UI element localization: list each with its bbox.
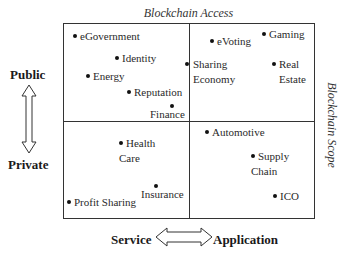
bullet-icon	[115, 56, 119, 60]
item-egovernment: eGovernment	[73, 30, 140, 43]
blockchain-access-title: Blockchain Access	[63, 6, 314, 21]
item-health-care: HealthCare	[119, 137, 155, 165]
application-label: Application	[213, 232, 278, 248]
item-energy: Energy	[86, 70, 125, 83]
item-supply-chain: SupplyChain	[251, 150, 289, 178]
item-automotive: Automotive	[205, 126, 265, 139]
service-label: Service	[111, 232, 151, 248]
item-finance: Finance	[150, 108, 185, 121]
item-real-estate: RealEstate	[272, 58, 306, 86]
bullet-icon	[273, 194, 277, 198]
bullet-icon	[127, 90, 131, 94]
blockchain-scope-title: Blockchain Scope	[324, 82, 339, 168]
bullet-icon	[119, 141, 123, 145]
double-horizontal-arrow-icon	[155, 226, 213, 248]
private-label: Private	[8, 157, 48, 173]
item-identity: Identity	[115, 52, 156, 65]
item-profit-sharing: Profit Sharing	[67, 196, 136, 209]
bullet-icon	[272, 62, 276, 66]
item-reputation: Reputation	[127, 86, 182, 99]
item-insurance: Insurance	[141, 188, 184, 201]
bullet-icon	[67, 200, 71, 204]
bullet-icon	[251, 154, 255, 158]
horizontal-divider	[63, 121, 314, 122]
bullet-icon	[262, 32, 266, 36]
double-vertical-arrow-icon	[21, 84, 37, 154]
item-gaming: Gaming	[262, 28, 304, 41]
blockchain-scope-title-container: Blockchain Scope	[318, 70, 344, 180]
item-sharing-economy: SharingEconomy	[193, 58, 235, 86]
bullet-icon	[86, 74, 90, 78]
bullet-icon	[210, 39, 214, 43]
bullet-icon	[205, 130, 209, 134]
bullet-icon	[73, 34, 77, 38]
public-label: Public	[10, 67, 45, 83]
item-evoting: eVoting	[210, 35, 251, 48]
sharing-economy-bullet-icon	[185, 62, 189, 66]
item-ico: ICO	[273, 190, 299, 203]
